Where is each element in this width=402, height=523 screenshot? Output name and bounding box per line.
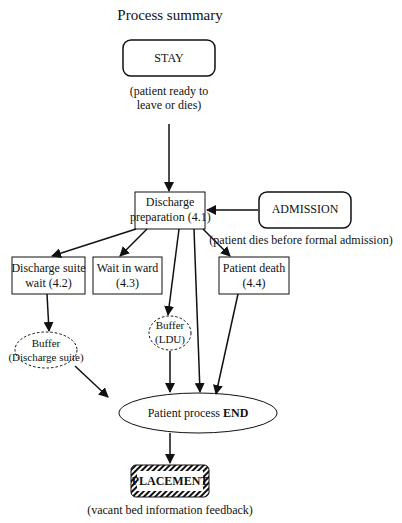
end-prefix: Patient process [148,406,223,420]
discharge-prep-line1: Discharge [135,195,205,210]
arrow-buffer-to-end [75,366,108,397]
buffer-ldu-line1: Buffer [145,318,195,333]
ward-line2: (4.3) [93,276,162,291]
buffer-ds-line1: Buffer [6,336,86,351]
stay-note-2: leave or dies) [109,98,229,113]
placement-label: PLACEMENT [131,474,209,489]
death-line2: (4.4) [216,276,292,291]
arrow-death-to-end [216,294,238,394]
admission-note: (patient dies before formal admission) [200,233,402,248]
death-line1: Patient death [216,261,292,276]
end-bold: END [223,406,248,420]
dsw-line1: Discharge suite [8,261,89,276]
page-title: Process summary [0,8,340,23]
arrow-prep-to-end [194,229,200,392]
end-label: Patient process END [119,406,277,421]
admission-label: ADMISSION [259,202,351,217]
stay-note-1: (patient ready to [109,84,229,99]
discharge-prep-line2: preparation (4.1) [130,210,210,225]
ward-line1: Wait in ward [93,261,162,276]
arrow-dsw-to-buffer [47,294,49,331]
placement-note: (vacant bed information feedback) [70,503,270,518]
arrow-prep-to-ldu [168,229,179,315]
dsw-line2: wait (4.2) [8,276,89,291]
buffer-ldu-line2: (LDU) [145,332,195,347]
buffer-ds-line2: (Discharge suite) [6,350,86,365]
stay-label: STAY [123,51,215,66]
